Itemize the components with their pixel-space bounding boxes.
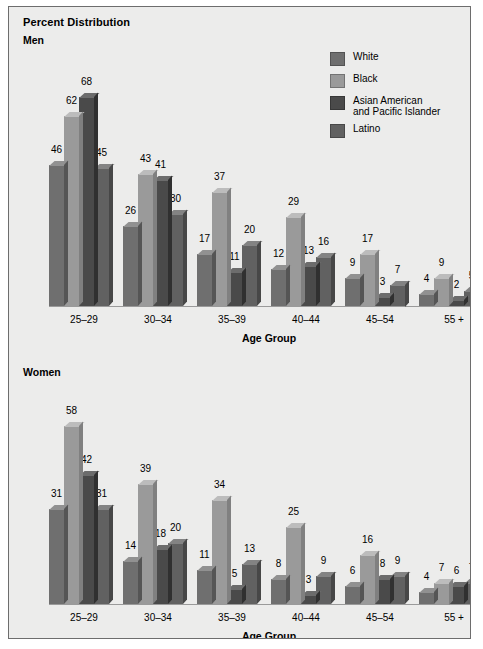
bar-face [197,254,212,306]
bar-value-label: 4 [424,273,430,284]
bar-side-face [286,575,290,604]
bar-face [49,165,64,306]
bar-value-label: 20 [244,224,255,235]
bar: 46 [49,165,64,306]
bar-side-face [331,252,335,306]
bar-value-label: 7 [469,562,471,573]
bar-side-face [109,504,113,604]
bar-value-label: 13 [244,543,255,554]
bar-side-face [390,575,394,604]
bar-side-face [94,93,98,306]
panel-label-men: Men [23,34,44,46]
bar-side-face [242,268,246,306]
bar-value-label: 34 [214,479,225,490]
bar-side-face [227,495,231,604]
bar-face [345,278,360,306]
bar-value-label: 20 [170,522,181,533]
legend-label-black: Black [353,73,377,84]
bar-face [49,509,64,604]
bar-value-label: 39 [140,463,151,474]
bar-side-face [212,249,216,306]
bar-value-label: 6 [350,565,356,576]
bar-value-label: 16 [362,534,373,545]
bar-group: 1134513 [197,389,259,604]
bar-value-label: 7 [439,562,445,573]
panel-label-women: Women [23,366,61,378]
bar-side-face [183,538,187,604]
bar-side-face [109,163,113,306]
bar: 4 [419,592,434,604]
bar-side-face [64,160,68,306]
bar-value-label: 8 [380,558,386,569]
bar-value-label: 62 [66,95,77,106]
bar-value-label: 17 [199,233,210,244]
bar-side-face [227,188,231,306]
bar-value-label: 5 [232,568,238,579]
bar-side-face [94,471,98,604]
bar-side-face [153,169,157,306]
bar-value-label: 6 [454,565,460,576]
bar-face [271,579,286,604]
bar-value-label: 3 [380,276,386,287]
bar-group: 12291316 [271,91,333,306]
bar-value-label: 9 [350,257,356,268]
bar: 31 [49,509,64,604]
bar-side-face [331,572,335,604]
bar-face [123,226,138,306]
bar-side-face [153,480,157,604]
x-axis-title: Age Group [49,332,471,344]
bar: 8 [271,579,286,604]
bar: 4 [419,294,434,306]
bar-group: 17371120 [197,91,259,306]
bar-side-face [301,212,305,306]
bar-side-face [257,240,261,306]
bar: 11 [197,570,212,604]
bar-side-face [138,557,142,604]
x-axis-title: Age Group [49,630,471,639]
bar-value-label: 12 [273,248,284,259]
bar-group: 4925 [419,91,471,306]
bar-side-face [286,265,290,306]
bar-value-label: 31 [51,488,62,499]
legend-label-white: White [353,51,379,62]
bar-value-label: 68 [81,76,92,87]
x-axis-tick-label: 55 + [411,314,471,325]
bar-face [197,570,212,604]
bar-value-label: 16 [318,236,329,247]
bar-group: 4767 [419,389,471,604]
bar-value-label: 14 [125,540,136,551]
bar: 9 [345,278,360,306]
bar-side-face [360,581,364,604]
bar-face [419,294,434,306]
bar-group: 82539 [271,389,333,604]
bar-value-label: 9 [439,257,445,268]
x-axis-line [49,306,471,307]
bar-side-face [212,566,216,604]
bar-value-label: 46 [51,144,62,155]
bar-value-label: 58 [66,405,77,416]
bar-value-label: 29 [288,196,299,207]
bar-side-face [360,274,364,306]
bar-side-face [375,550,379,604]
bar-side-face [449,578,453,604]
bar-side-face [138,222,142,306]
bar-value-label: 11 [199,549,209,560]
bar-side-face [405,572,409,604]
bar-value-label: 26 [125,205,136,216]
bar-group: 91737 [345,91,407,306]
bar-face [271,269,286,306]
bar-value-label: 3 [306,574,312,585]
bar-value-label: 5 [469,270,471,281]
bar-side-face [464,581,468,604]
bar-side-face [301,523,305,604]
bar-value-label: 4 [424,571,430,582]
bar: 14 [123,561,138,604]
bar-group: 31584231 [49,389,111,604]
plot-men: 4662684526434130173711201229131691737492… [49,91,471,336]
bar: 6 [345,586,360,604]
bar-group: 26434130 [123,91,185,306]
legend-swatch-white [330,52,345,66]
bar-side-face [183,209,187,306]
bar-value-label: 9 [321,555,327,566]
bar-face [419,592,434,604]
